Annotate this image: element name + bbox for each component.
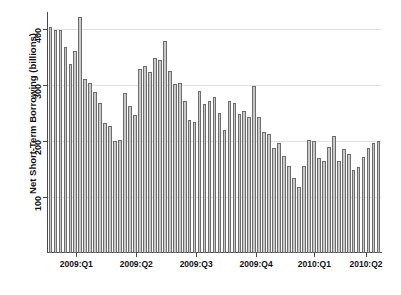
bar — [203, 104, 207, 253]
x-tick-label-2009:Q3: 2009:Q3 — [180, 259, 213, 269]
bar — [118, 140, 122, 253]
bar — [123, 93, 127, 253]
bar — [252, 86, 256, 253]
bar — [213, 97, 217, 253]
bar — [168, 71, 172, 253]
bar — [367, 148, 371, 253]
bar — [287, 166, 291, 253]
bar — [103, 123, 107, 253]
bar — [64, 47, 68, 253]
bar — [362, 157, 366, 253]
bar — [138, 69, 142, 253]
bar — [262, 132, 266, 253]
bar — [277, 143, 281, 253]
bar — [69, 64, 73, 253]
bar — [352, 170, 356, 253]
bar — [143, 66, 147, 253]
x-tick-2009:Q1 — [76, 252, 77, 257]
bar — [312, 141, 316, 253]
chart-figure: Net Short-Term Borrowing (billions) 1002… — [0, 0, 401, 295]
x-tick-2009:Q4 — [256, 252, 257, 257]
bar — [218, 113, 222, 253]
bar — [193, 122, 197, 253]
x-tick-2010:Q2 — [366, 252, 367, 257]
bar — [272, 148, 276, 253]
bar — [292, 178, 296, 253]
bar — [113, 141, 117, 253]
bar — [133, 115, 137, 253]
bar — [322, 161, 326, 253]
plot-area: 100200300400 — [48, 12, 381, 253]
bar — [108, 126, 112, 253]
bar — [183, 101, 187, 253]
bar — [163, 41, 167, 253]
bar — [242, 111, 246, 253]
bar — [88, 83, 92, 253]
bar — [247, 117, 251, 253]
x-tick-2010:Q1 — [314, 252, 315, 257]
y-tick-label-400: 400 — [33, 28, 43, 58]
bar — [377, 141, 381, 253]
x-tick-label-2010:Q2: 2010:Q2 — [349, 259, 382, 269]
bar — [73, 51, 77, 253]
bar — [228, 101, 232, 253]
bar — [267, 134, 271, 253]
bar — [233, 103, 237, 253]
bar — [282, 156, 286, 253]
bar — [317, 158, 321, 253]
bar — [148, 72, 152, 253]
x-tick-label-2009:Q1: 2009:Q1 — [60, 259, 93, 269]
bar — [93, 92, 97, 253]
bar — [327, 147, 331, 253]
bar — [342, 149, 346, 253]
bar — [158, 60, 162, 253]
x-axis-ticks: 2009:Q12009:Q22009:Q32009:Q42010:Q12010:… — [47, 252, 382, 282]
bar — [83, 79, 87, 253]
bar — [54, 30, 58, 253]
bar — [128, 106, 132, 253]
bar — [347, 154, 351, 253]
bar — [178, 83, 182, 253]
bar — [297, 187, 301, 253]
bar — [372, 143, 376, 253]
bar-series — [48, 12, 381, 253]
x-tick-label-2010:Q1: 2010:Q1 — [298, 259, 331, 269]
bar — [307, 140, 311, 253]
bar — [49, 27, 53, 253]
bar — [173, 84, 177, 253]
y-tick-label-200: 200 — [33, 140, 43, 170]
bar — [337, 161, 341, 253]
bar — [332, 136, 336, 253]
bar — [357, 167, 361, 253]
bar — [198, 91, 202, 253]
bar — [208, 101, 212, 253]
bar — [238, 114, 242, 253]
bar — [59, 30, 63, 253]
bar — [188, 120, 192, 253]
x-tick-2009:Q3 — [196, 252, 197, 257]
bar — [98, 103, 102, 253]
bar — [302, 166, 306, 253]
bar — [78, 17, 82, 253]
x-tick-label-2009:Q2: 2009:Q2 — [120, 259, 153, 269]
bar — [257, 117, 261, 253]
bar — [223, 130, 227, 253]
y-tick-label-300: 300 — [33, 84, 43, 114]
y-tick-label-100: 100 — [33, 196, 43, 226]
bar — [153, 58, 157, 253]
x-tick-label-2009:Q4: 2009:Q4 — [240, 259, 273, 269]
x-tick-2009:Q2 — [136, 252, 137, 257]
